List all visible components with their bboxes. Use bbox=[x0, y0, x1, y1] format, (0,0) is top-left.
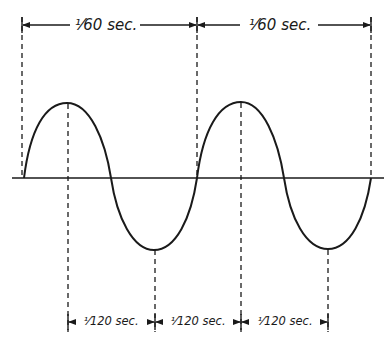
half-cycle-label-1: ¹⁄120 sec. bbox=[82, 316, 139, 328]
full-cycle-label-2: ¹⁄60 sec. bbox=[247, 18, 313, 33]
full-cycle-label-1: ¹⁄60 sec. bbox=[73, 18, 139, 33]
half-cycle-label-2: ¹⁄120 sec. bbox=[169, 316, 226, 328]
half-cycle-guides bbox=[68, 103, 328, 332]
top-cycle-guides bbox=[22, 17, 371, 178]
sine-wave-diagram bbox=[0, 0, 389, 344]
half-cycle-label-3: ¹⁄120 sec. bbox=[256, 316, 313, 328]
sine-waveform bbox=[24, 102, 371, 250]
